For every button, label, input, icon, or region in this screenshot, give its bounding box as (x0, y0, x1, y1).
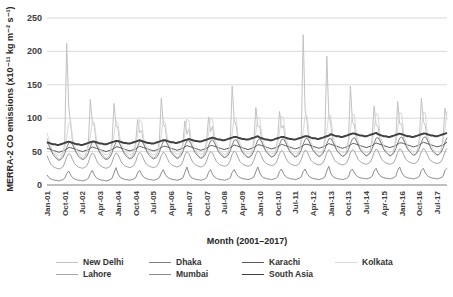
x-tick-label: Jul-02 (78, 190, 87, 214)
x-tick-label: Jul-08 (220, 190, 229, 214)
legend-row: LahoreMumbaiSouth Asia (56, 269, 428, 279)
x-tick-label: Oct-01 (61, 190, 70, 215)
legend-line-icon (149, 262, 171, 263)
legend-item-dhaka: Dhaka (149, 257, 242, 267)
legend-item-new-delhi: New Delhi (56, 257, 149, 267)
x-tick-label: Apr-06 (167, 190, 176, 216)
y-tick-label: 200 (27, 46, 42, 56)
x-tick-label: Jan-04 (114, 190, 123, 216)
x-axis-title: Month (2001–2017) (48, 236, 446, 246)
y-tick-label: 150 (27, 80, 42, 90)
legend-label: Dhaka (176, 257, 202, 267)
legend-item-karachi: Karachi (242, 257, 335, 267)
legend-label: Mumbai (176, 269, 208, 279)
x-tick-label: Jul-14 (362, 190, 371, 214)
legend-line-icon (335, 262, 357, 263)
x-tick-label: Jul-05 (149, 190, 158, 214)
x-tick-label: Jan-10 (256, 190, 265, 216)
legend-line-icon (242, 274, 264, 275)
legend-item-mumbai: Mumbai (149, 269, 242, 279)
x-tick-label: Apr-09 (238, 190, 247, 216)
series-line-new-delhi (47, 35, 447, 160)
y-tick-label: 50 (32, 147, 42, 157)
x-tick-label: Jan-01 (43, 190, 52, 216)
x-tick-label: Jan-07 (185, 190, 194, 216)
x-tick-label: Oct-16 (415, 190, 424, 215)
x-tick-label: Oct-04 (132, 190, 141, 215)
plot-area: 050100150200250Jan-01Oct-01Jul-02Apr-03J… (0, 0, 453, 297)
series-line-south-asia (47, 133, 447, 145)
x-tick-label: Jan-16 (398, 190, 407, 216)
legend-label: Lahore (83, 269, 111, 279)
legend-label: Karachi (269, 257, 300, 267)
legend-line-icon (149, 274, 171, 275)
y-tick-label: 0 (37, 180, 42, 190)
legend-label: New Delhi (83, 257, 124, 267)
x-tick-label: Apr-12 (309, 190, 318, 216)
x-tick-label: Oct-10 (274, 190, 283, 215)
legend-item-kolkata: Kolkata (335, 257, 428, 267)
legend-label: Kolkata (362, 257, 393, 267)
y-tick-label: 100 (27, 113, 42, 123)
x-tick-label: Jul-11 (291, 190, 300, 213)
x-tick-label: Oct-13 (344, 190, 353, 215)
legend-line-icon (242, 262, 264, 263)
legend-row: New DelhiDhakaKarachiKolkata (56, 257, 428, 267)
y-tick-label: 250 (27, 13, 42, 23)
legend-item-south-asia: South Asia (242, 269, 335, 279)
x-tick-label: Jul-17 (433, 190, 442, 214)
legend-line-icon (56, 262, 78, 263)
chart-legend: New DelhiDhakaKarachiKolkataLahoreMumbai… (56, 257, 428, 279)
x-tick-label: Jan-13 (327, 190, 336, 216)
legend-line-icon (56, 274, 78, 275)
legend-item-lahore: Lahore (56, 269, 149, 279)
x-tick-label: Oct-07 (203, 190, 212, 215)
x-tick-label: Apr-15 (380, 190, 389, 216)
x-tick-label: Apr-03 (96, 190, 105, 216)
co-emissions-chart: MERRA-2 CO emissions (x10⁻¹¹ kg m⁻² s⁻¹)… (0, 0, 453, 297)
legend-label: South Asia (269, 269, 313, 279)
